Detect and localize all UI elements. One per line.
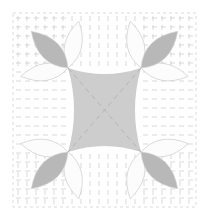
quilt-canvas — [0, 0, 207, 220]
quilt-block-figure: Appliqué Quilt Block — Four-Corner Petal… — [0, 0, 207, 220]
